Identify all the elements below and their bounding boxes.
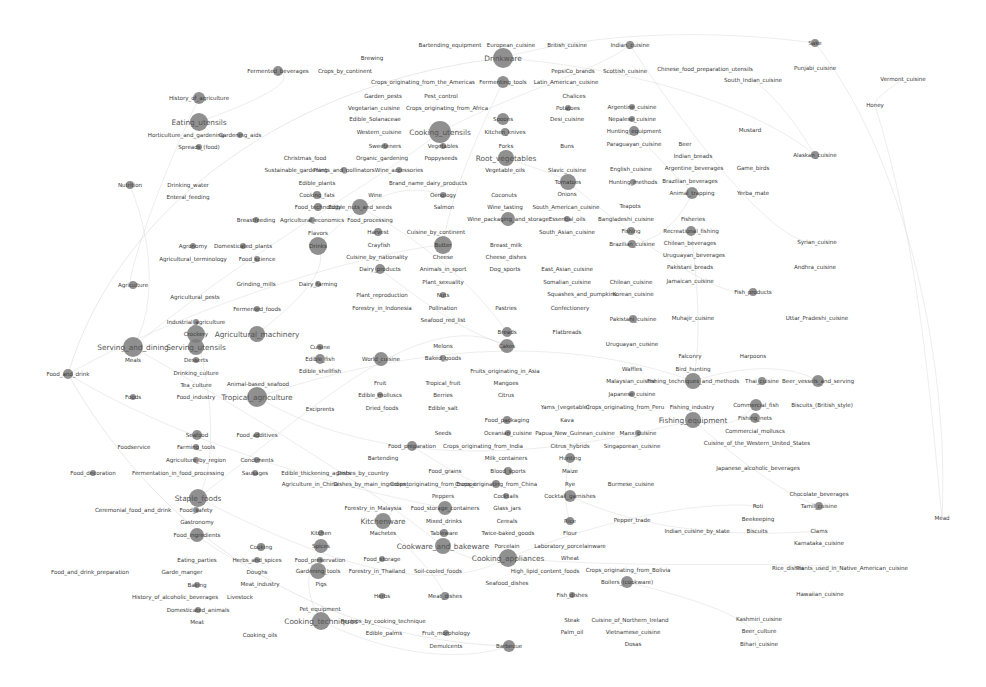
graph-node-label: Citrus_hybrids	[550, 443, 589, 450]
graph-node-label: Biscuits	[746, 528, 767, 535]
graph-node-label: Root_vegetables	[476, 155, 536, 162]
graph-node-label: Agricultural_machinery	[215, 331, 300, 338]
graph-node-label: Brazilian_beverages	[662, 178, 717, 185]
graph-node-label: Maize	[562, 468, 578, 475]
graph-node-label: Foodservice	[118, 444, 151, 451]
graph-node-label: Recipes_by_cooking_technique	[340, 618, 425, 625]
graph-node-label: Indian_cuisine_by_state	[664, 528, 729, 535]
graph-node-label: Poppyseeds	[425, 155, 458, 162]
graph-node-label: Buns	[560, 143, 574, 150]
graph-node-label: Dishes_by_country	[337, 470, 389, 477]
graph-node-label: Animal_trapping	[669, 190, 714, 197]
graph-node-label: Crops_originating_from_India	[443, 443, 523, 450]
graph-node-label: Edible_palms	[366, 630, 402, 637]
graph-node-label: Exciprents	[306, 406, 335, 413]
graph-node-label: Uruguayan_beverages	[663, 252, 725, 259]
graph-node-label: Tropical_agriculture	[221, 394, 292, 401]
graph-node-label: Cheese_dishes	[486, 254, 527, 261]
graph-node-label: Brazilian_cuisine	[609, 241, 655, 248]
graph-node-label: Plant_sexuality	[422, 279, 463, 286]
graph-node-label: Hunting_methods	[609, 179, 658, 186]
graph-node-label: Food_decoration	[70, 470, 115, 477]
graph-node-label: Fruit_morphology	[422, 630, 470, 637]
graph-node-label: Cocktails	[494, 493, 519, 500]
graph-node-label: Pest_control	[424, 93, 457, 100]
graph-node-label: Seafood_dishes	[486, 580, 529, 587]
graph-node-label: Fish_products	[734, 289, 771, 296]
graph-node-label: Uttar_Pradeshi_cuisine	[786, 315, 848, 322]
graph-node-label: Desi_cuisine	[550, 116, 584, 123]
graph-node-label: Nutrition	[118, 182, 142, 189]
graph-node-label: English_cuisine	[610, 166, 652, 173]
graph-node-label: Harvest	[367, 229, 388, 236]
graph-node-label: Glass_jars	[493, 505, 521, 512]
graph-node-label: Staple_foods	[175, 495, 222, 502]
graph-node-label: Crops_by_continent	[318, 68, 372, 75]
graph-node-label: Baking	[188, 582, 207, 589]
graph-node-label: Ceremonial_food_and_drink	[95, 507, 171, 514]
graph-node-label: Crops_originating_from_the_Americas	[371, 79, 475, 86]
graph-node-label: Korean_cuisine	[612, 291, 653, 298]
network-graph-canvas[interactable]: Bartending_equipmentEuropean_cuisineBrit…	[0, 0, 986, 687]
graph-node-label: Bangladeshi_cuisine	[598, 216, 654, 223]
graph-node-label: History_of_agriculture	[169, 95, 229, 102]
graph-node-label: Fruit	[374, 380, 386, 387]
graph-node-label: Meat_industry	[241, 581, 280, 588]
graph-node-label: Kitchenware	[360, 518, 405, 525]
graph-node-label: Papua_New_Guinean_cuisine	[535, 430, 614, 437]
graph-node-label: Pigs	[315, 581, 326, 588]
graph-node-label: Breastfeeding	[237, 217, 275, 224]
graph-node-label: Berries	[433, 392, 452, 399]
graph-node-label: Fish_dishes	[557, 592, 588, 599]
graph-node-label: Chalices	[562, 93, 585, 100]
graph-node-label: Honey	[866, 102, 884, 109]
graph-node-label: Palm_oil	[561, 629, 583, 636]
graph-node-label: Machetes	[370, 530, 396, 537]
graph-node-label: Fishing_industry	[670, 404, 714, 411]
graph-node-label: Hawaiian_cuisine	[796, 591, 843, 598]
graph-node-label: Pastries	[495, 305, 516, 312]
graph-node-label: Japanese_cuisine	[608, 391, 655, 398]
graph-node-label: Crops_originating_from_Bolivia	[586, 567, 671, 574]
graph-node-label: Milk_containers	[485, 455, 528, 462]
graph-node-label: Pakistani_breads	[667, 264, 713, 271]
graph-node-label: Roti	[753, 503, 764, 510]
graph-node-label: Burmese_cuisine	[608, 481, 655, 488]
graph-node-label: Mead	[934, 515, 949, 522]
graph-node-label: Yams_(vegetable)	[541, 404, 590, 411]
graph-node-label: British_cuisine	[547, 42, 587, 49]
graph-node-label: Chilean_cuisine	[610, 279, 653, 286]
graph-node-label: Crops_originating_from_Peru	[586, 404, 665, 411]
graph-node-label: Seafood	[186, 432, 208, 439]
graph-node-label: Argentine_beverages	[665, 165, 724, 172]
graph-node-label: Argentine_cuisine	[608, 104, 657, 111]
graph-node-label: Cuisine_of_Northern_Ireland	[591, 617, 668, 624]
graph-node-label: Scottish_cuisine	[603, 68, 647, 75]
graph-node-label: Cooking_utensils	[409, 129, 470, 136]
graph-node-label: Sake	[808, 40, 821, 47]
graph-node-label: Horticulture_and_gardening	[148, 132, 224, 139]
graph-node-label: Drinkware	[484, 55, 521, 62]
graph-node-label: Flour	[563, 530, 577, 537]
graph-node-label: Wine	[368, 192, 382, 199]
graph-node-label: Nuts	[437, 292, 450, 299]
graph-node-label: Cuisine_by_nationality	[346, 254, 408, 261]
graph-node-label: Recreational_fishing	[663, 228, 718, 235]
graph-node-label: Commercial_molluscs	[725, 428, 785, 435]
graph-node-label: Mixed_drinks	[426, 518, 462, 525]
graph-node-label: Teapots	[619, 203, 640, 210]
graph-node-label: Laboratory_porcelainware	[534, 543, 605, 550]
graph-node-label: Food_science	[239, 256, 276, 263]
graph-node-label: South_Asian_cuisine	[539, 229, 595, 236]
graph-node-label: Indian_breads	[674, 153, 712, 160]
graph-node-label: Agriculture	[118, 282, 148, 289]
graph-node-label: Herbs	[374, 593, 390, 600]
graph-node-label: Tomatoes	[555, 179, 581, 186]
graph-node-label: Slavic_cuisine	[548, 167, 586, 174]
graph-node-label: Beer	[679, 141, 692, 148]
graph-node-label: Citrus	[498, 392, 514, 399]
graph-node-label: Twice-baked_goods	[482, 530, 535, 537]
graph-node-label: Soil-cooled_foods	[414, 568, 462, 575]
graph-node-label: Wine_packaging_and_storage	[467, 216, 549, 223]
graph-node-label: Food_and_drink	[46, 371, 89, 378]
